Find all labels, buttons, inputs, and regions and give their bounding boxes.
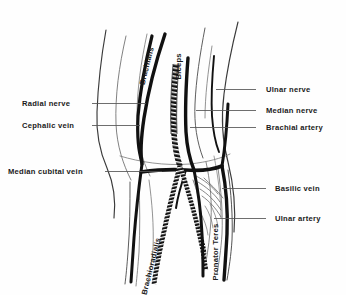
label-median-cubital-vein: Median cubital vein [8, 168, 83, 176]
label-biceps: Biceps [175, 53, 183, 79]
label-cephalic-vein: Cephalic vein [22, 122, 74, 130]
label-pronator-teres: Pronator Teres [212, 224, 220, 281]
label-ulnar-artery: Ulnar artery [275, 215, 321, 223]
anatomy-diagram: Radial nerveCephalic veinMedian cubital … [0, 0, 346, 295]
label-brachial-artery: Brachial artery [266, 124, 323, 132]
label-radial-nerve: Radial nerve [22, 100, 70, 108]
label-basilic-vein: Basilic vein [275, 185, 320, 193]
anatomy-illustration [0, 0, 346, 295]
label-ulnar-nerve: Ulnar nerve [266, 86, 311, 94]
label-median-nerve: Median nerve [266, 107, 318, 115]
